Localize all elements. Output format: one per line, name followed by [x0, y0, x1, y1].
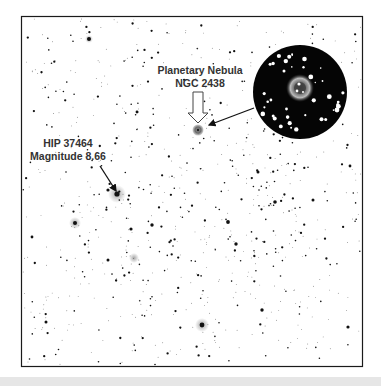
nebula-label-line1: Planetary Nebula — [150, 64, 250, 77]
star-label-line1: HIP 37464 — [22, 137, 114, 150]
star-field-figure: Planetary Nebula NGC 2438 HIP 37464 Magn… — [0, 0, 381, 386]
star-label-line2: Magnitude 8.66 — [22, 150, 114, 163]
nebula-label-line2: NGC 2438 — [150, 77, 250, 90]
nebula-inset — [253, 45, 347, 139]
star-label: HIP 37464 Magnitude 8.66 — [22, 137, 114, 163]
nebula-label: Planetary Nebula NGC 2438 — [150, 64, 250, 90]
bottom-strip — [0, 377, 381, 386]
star-field-svg — [0, 0, 381, 386]
